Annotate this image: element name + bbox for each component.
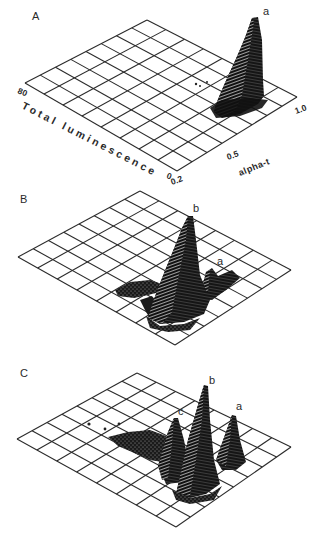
panel-c: C b c a bbox=[17, 367, 291, 527]
peak-label-a: a bbox=[263, 5, 270, 17]
peak-label-c-a: a bbox=[236, 400, 243, 412]
peak-label-b-b: b bbox=[193, 202, 199, 214]
panel-label-b: B bbox=[20, 193, 27, 205]
panel-b: B b a bbox=[18, 191, 291, 345]
peak-label-c-b: b bbox=[209, 374, 215, 386]
panel-a: A a 80 Total luminescence 0 0.2 0.5 1.0 … bbox=[16, 5, 308, 187]
grid-b bbox=[18, 191, 291, 345]
peak-label-c-c: c bbox=[178, 405, 184, 417]
alpha-tick-1-0: 1.0 bbox=[293, 102, 308, 116]
alpha-axis-title: alpha-t bbox=[237, 156, 271, 178]
peak-label-b-a: a bbox=[217, 255, 224, 267]
figure-3d-surface-plots: A a 80 Total luminescence 0 0.2 0.5 1.0 … bbox=[0, 0, 325, 534]
alpha-tick-0-5: 0.5 bbox=[225, 148, 240, 162]
luminescence-tick-80: 80 bbox=[16, 86, 29, 99]
panel-label-a: A bbox=[32, 10, 40, 22]
panel-label-c: C bbox=[20, 367, 28, 379]
luminescence-axis-title: Total luminescence bbox=[20, 99, 160, 178]
